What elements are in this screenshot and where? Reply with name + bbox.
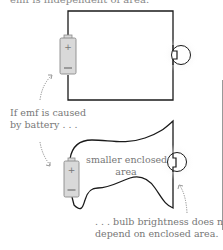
svg-text:+: + — [68, 165, 76, 175]
light-bulb-icon — [163, 37, 199, 73]
svg-text:+: + — [64, 42, 72, 52]
dotted-arrow-down-icon — [40, 142, 50, 166]
top-circuit: + — [60, 11, 199, 100]
annotation-right: . . . bulb brightness does not depend on… — [95, 216, 223, 240]
battery-icon: + — [60, 35, 76, 74]
annotation-right-line-2: depend on enclosed area. — [95, 228, 223, 240]
enclosed-area-line-2: area — [86, 166, 166, 178]
page-edge-divider — [222, 80, 223, 230]
enclosed-area-line-1: smaller enclosed — [86, 154, 166, 166]
annotation-left: If emf is caused by battery . . . — [10, 107, 86, 131]
annotation-left-line-2: by battery . . . — [10, 119, 86, 131]
enclosed-area-label: smaller enclosed area — [86, 154, 166, 178]
annotation-left-line-1: If emf is caused — [10, 107, 86, 119]
dotted-arrow-up-icon — [40, 75, 52, 100]
battery-icon: + — [64, 158, 79, 197]
annotation-right-line-1: . . . bulb brightness does not — [95, 216, 223, 228]
dotted-arrow-up-icon — [178, 185, 187, 213]
